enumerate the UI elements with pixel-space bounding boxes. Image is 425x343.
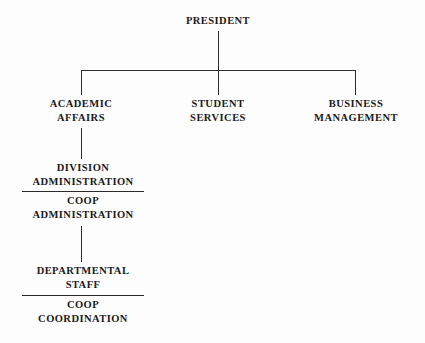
node-division-administration-line-2: ADMINISTRATION	[32, 175, 133, 189]
divider-division-coop-administration	[22, 191, 144, 192]
node-business-management-line-1: BUSINESS	[314, 97, 398, 111]
node-departmental-staff: DEPARTMENTAL STAFF	[37, 264, 130, 291]
node-president: PRESIDENT	[186, 14, 250, 28]
divider-departmental-staff-coop-coordination	[22, 295, 144, 296]
node-academic-affairs: ACADEMIC AFFAIRS	[50, 97, 113, 124]
node-president-line-1: PRESIDENT	[186, 14, 250, 28]
node-coop-administration: COOP ADMINISTRATION	[32, 194, 133, 221]
node-departmental-staff-line-2: STAFF	[37, 278, 130, 292]
node-coop-administration-line-2: ADMINISTRATION	[32, 208, 133, 222]
node-student-services-line-1: STUDENT	[190, 97, 246, 111]
connector-drop-academic-affairs	[81, 70, 82, 95]
connector-drop-business-management	[355, 70, 356, 95]
org-chart: PRESIDENT ACADEMIC AFFAIRS STUDENT SERVI…	[0, 0, 425, 343]
node-business-management-line-2: MANAGEMENT	[314, 111, 398, 125]
node-academic-affairs-line-1: ACADEMIC	[50, 97, 113, 111]
node-coop-coordination-line-1: COOP	[38, 298, 128, 312]
node-business-management: BUSINESS MANAGEMENT	[314, 97, 398, 124]
node-coop-administration-line-1: COOP	[32, 194, 133, 208]
connector-coop-administration-to-departmental-staff	[81, 226, 82, 262]
node-student-services-line-2: SERVICES	[190, 111, 246, 125]
node-coop-coordination-line-2: COORDINATION	[38, 312, 128, 326]
connector-president-stem	[218, 31, 219, 70]
node-coop-coordination: COOP COORDINATION	[38, 298, 128, 325]
node-departmental-staff-line-1: DEPARTMENTAL	[37, 264, 130, 278]
node-division-administration-line-1: DIVISION	[32, 161, 133, 175]
connector-drop-student-services	[218, 70, 219, 95]
node-division-administration: DIVISION ADMINISTRATION	[32, 161, 133, 188]
connector-academic-affairs-to-division-administration	[81, 128, 82, 159]
node-student-services: STUDENT SERVICES	[190, 97, 246, 124]
node-academic-affairs-line-2: AFFAIRS	[50, 111, 113, 125]
